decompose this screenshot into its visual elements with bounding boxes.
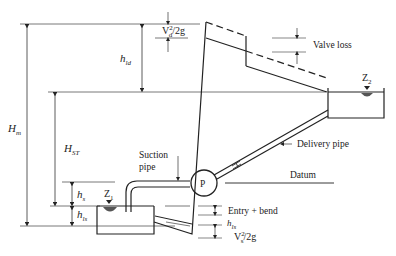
- hld-label: hld: [120, 52, 131, 67]
- loss-line-2: [155, 216, 192, 224]
- suction-pipe-label: Suction: [139, 150, 168, 160]
- valve-loss-label: Valve loss: [313, 40, 352, 50]
- datum-label: Datum: [290, 170, 316, 180]
- z1-water-symbol: [103, 207, 117, 212]
- suction-pipe: [126, 181, 190, 212]
- entry-bend-label: Entry + bend: [228, 206, 278, 216]
- hs-label: hs: [77, 188, 86, 203]
- z2-water-symbol: [361, 93, 373, 97]
- hls-right-label: hls: [227, 218, 236, 231]
- vs-label: V2s/2g: [234, 230, 256, 245]
- vd-label: V2d/2g: [162, 24, 185, 39]
- energy-line-dashed: [206, 22, 327, 78]
- pump-label: P: [200, 179, 205, 189]
- z2-marker-icon: [364, 86, 370, 90]
- suction-pipe-label-2: pipe: [139, 162, 155, 172]
- hm-label: Hm: [7, 122, 21, 137]
- pump-head-diagram: Hm HST hld V2d/2g hs hls Z1 Suction pipe…: [0, 0, 396, 256]
- z2-label: Z2: [362, 72, 372, 86]
- energy-gradient-line: [154, 22, 206, 234]
- hst-label: HST: [63, 142, 80, 157]
- hydraulic-gradient-line: [206, 38, 246, 51]
- hgl-after-valve: [246, 66, 327, 92]
- z1-label: Z1: [104, 188, 114, 202]
- delivery-pipe-label: Delivery pipe: [297, 139, 349, 149]
- hls-left-label: hls: [77, 208, 87, 223]
- suction-pipe-inner: [131, 187, 190, 212]
